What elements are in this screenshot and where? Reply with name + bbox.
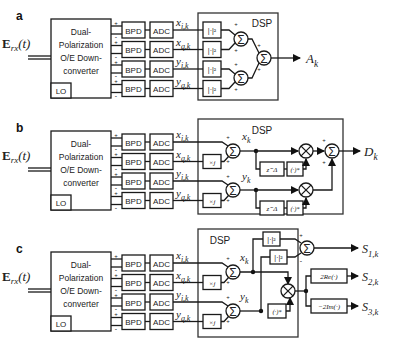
signal-label: yq,k [175, 75, 191, 90]
receiver-diagrams: aErx(t)Dual-PolarizationO/E Down-convert… [0, 0, 402, 351]
plus-sign: + [226, 197, 230, 203]
signal-label: yi,k [175, 55, 189, 70]
yk-label: yk [241, 170, 251, 185]
downconverter-label: Dual- [71, 139, 91, 149]
dsp-label: DSP [252, 125, 273, 136]
wire [173, 263, 228, 267]
abs-square-label: |·|² [267, 236, 276, 244]
plus-sign: + [226, 173, 230, 179]
conjugate-label: (·)* [290, 205, 300, 213]
output-label-sub: 1,k [368, 249, 378, 259]
im-label: −2Im(·) [318, 303, 341, 311]
output-label-sub: 3,k [367, 307, 378, 317]
signal-label: xq,k [175, 36, 191, 51]
plus-sign: + [234, 47, 238, 53]
signal-label: xi,k [175, 16, 189, 31]
bpd-label: BPD [125, 178, 142, 187]
times-j-label: ×j [209, 280, 216, 288]
bpd-label: BPD [125, 46, 142, 55]
delay-label: z⁻Δ [266, 205, 278, 213]
sum-top-sigma: Σ [237, 33, 244, 47]
downconverter-label: Dual- [71, 260, 91, 270]
bpd-label: BPD [125, 139, 142, 148]
signal-label: yq,k [175, 187, 191, 202]
panel-c-frontend: cErx(t)Dual-PolarizationO/E Down-convert… [2, 242, 191, 332]
plus-sign: + [114, 59, 118, 65]
plus-sign: + [114, 292, 118, 298]
times-j-label: ×j [209, 159, 216, 167]
input-label-part: (t) [18, 269, 30, 284]
output-label-sub: 2,k [368, 277, 378, 287]
input-label: Erx(t) [2, 36, 30, 53]
plus-sign: + [114, 190, 118, 196]
bpd-label: BPD [125, 299, 142, 308]
panel-label: b [16, 121, 23, 135]
bpd-label: BPD [125, 66, 142, 75]
panel-a-frontend: aErx(t)Dual-PolarizationO/E Down-convert… [2, 9, 191, 99]
lo-label: LO [56, 199, 67, 208]
wire [221, 43, 235, 50]
delay-label: z⁻Δ [266, 166, 278, 174]
abs-square-label: |·|² [208, 86, 217, 94]
downconverter-label: converter [63, 299, 99, 309]
plus-sign: + [257, 66, 261, 72]
wire [261, 257, 270, 311]
adc-label: ADC [153, 318, 170, 327]
signal-label: xi,k [175, 249, 189, 264]
signal-label: xq,k [175, 269, 191, 284]
signal-label: xi,k [175, 128, 189, 143]
downconverter-label: Polarization [59, 40, 104, 50]
wire [221, 82, 235, 89]
yk-label-sub: k [247, 176, 251, 185]
re-label: 2Re(·) [320, 273, 338, 281]
wire [173, 302, 228, 306]
input-label-part: E [2, 269, 11, 284]
bpd-label: BPD [125, 85, 142, 94]
bpd-label: BPD [125, 279, 142, 288]
plus-sign: + [114, 132, 118, 138]
dsp-label: DSP [210, 235, 231, 246]
adc-label: ADC [153, 260, 170, 269]
plus-sign: + [299, 232, 303, 238]
plus-sign: + [226, 134, 230, 140]
signal-label: xq,k [175, 148, 191, 163]
plus-sign: + [114, 272, 118, 278]
sum-y-sigma: Σ [229, 184, 236, 198]
xk-label: xk [241, 130, 251, 145]
abs-square-label: |·|² [208, 66, 217, 74]
downconverter-label: O/E Down- [60, 286, 102, 296]
sum-out-sigma: Σ [328, 145, 335, 159]
sum-x-sigma: Σ [229, 145, 236, 159]
adc-label: ADC [153, 85, 170, 94]
plus-sign: + [234, 21, 238, 27]
sum-bottom-sigma: Σ [237, 72, 244, 86]
adc-label: ADC [153, 46, 170, 55]
plus-sign: + [114, 253, 118, 259]
wire [221, 30, 235, 35]
plus-sign: + [226, 279, 230, 285]
plus-sign: + [322, 159, 326, 165]
plus-sign: + [114, 20, 118, 26]
output-label-sub: k [373, 152, 378, 162]
minus-sign: - [300, 257, 303, 264]
signal-label: yq,k [175, 308, 191, 323]
output-label: Dk [363, 144, 378, 162]
downconverter-label: Polarization [59, 273, 104, 283]
panel-label: c [16, 242, 23, 256]
plus-sign: + [114, 171, 118, 177]
sum-x-sigma: Σ [229, 266, 236, 280]
wire [240, 272, 288, 284]
downconverter-label: converter [63, 178, 99, 188]
bpd-label: BPD [125, 197, 142, 206]
lo-label: LO [56, 320, 67, 329]
input-label-part: (t) [18, 148, 30, 163]
sum-s1-sigma: Σ [303, 242, 310, 256]
wire [173, 181, 228, 185]
wire [306, 291, 311, 306]
panel-b-frontend: bErx(t)Dual-PolarizationO/E Down-convert… [2, 121, 191, 211]
plus-sign: + [226, 255, 230, 261]
input-label: Erx(t) [2, 269, 30, 286]
plus-sign: + [226, 318, 230, 324]
plus-sign: + [257, 42, 261, 48]
output-label-main: D [363, 144, 374, 159]
